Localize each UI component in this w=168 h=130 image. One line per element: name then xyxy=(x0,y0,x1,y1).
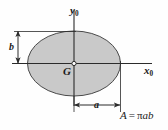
centroid-marker-icon xyxy=(72,61,76,65)
y-axis-label: y0 xyxy=(70,5,79,16)
ellipse-properties-figure: y0 x0 G b a A=πab xyxy=(0,0,168,130)
dimension-label-a: a xyxy=(94,100,99,110)
x-axis-label-text: x xyxy=(144,64,150,76)
x-axis-label: x0 xyxy=(144,65,153,76)
dimension-label-b: b xyxy=(9,42,14,52)
area-formula-lhs: A xyxy=(120,109,127,121)
centroid-label: G xyxy=(63,66,71,77)
area-formula-vars: ab xyxy=(143,109,154,121)
x-axis-label-subscript: 0 xyxy=(150,70,154,78)
area-formula: A=πab xyxy=(120,110,154,121)
area-formula-operator: = xyxy=(127,109,137,121)
y-axis-label-subscript: 0 xyxy=(75,10,79,18)
